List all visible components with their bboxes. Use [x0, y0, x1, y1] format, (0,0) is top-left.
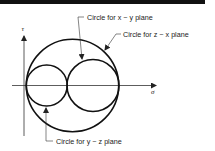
leader-lines	[46, 17, 121, 141]
leader-xy	[78, 17, 84, 59]
vertical-axis-label: τ	[22, 25, 25, 33]
label-yz-plane: Circle for y − z plane	[56, 137, 122, 146]
mohr-circle-diagram: τ σ Circle for x − y plane Circle for z …	[0, 0, 215, 151]
horizontal-axis-label: σ	[151, 88, 155, 96]
axes: τ σ	[12, 25, 156, 136]
label-zx-plane: Circle for z − x plane	[123, 30, 189, 39]
leader-zx	[105, 34, 121, 50]
label-xy-plane: Circle for x − y plane	[87, 13, 153, 22]
